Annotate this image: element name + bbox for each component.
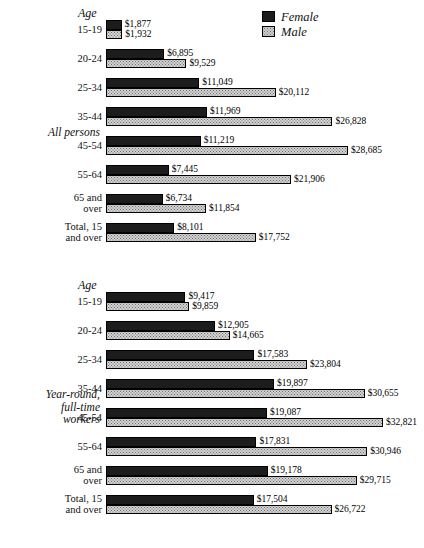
bar-female[interactable] [106, 292, 185, 302]
bar-female[interactable] [106, 194, 163, 204]
row-label-line: 20-24 [0, 54, 102, 65]
row-bars: $6,734$11,854 [106, 194, 424, 213]
bar-value-label-female: $7,445 [169, 164, 198, 175]
bar-wrapper-male: $26,722 [106, 505, 424, 515]
bar-wrapper-female: $17,504 [106, 495, 424, 505]
row-bars: $19,178$29,715 [106, 466, 424, 485]
bar-value-label-female: $19,178 [268, 465, 302, 476]
chart-row: 55-64$7,445$21,906 [0, 165, 424, 194]
bar-female[interactable] [106, 78, 199, 88]
row-label-line: 55-64 [0, 442, 102, 453]
row-bars: $19,087$32,821 [106, 408, 424, 427]
bar-female[interactable] [106, 49, 164, 59]
bar-value-label-male: $30,946 [367, 446, 401, 457]
bar-value-label-male: $11,854 [206, 203, 240, 214]
bar-value-label-female: $11,969 [207, 106, 241, 117]
bar-wrapper-male: $14,665 [106, 331, 424, 341]
bar-wrapper-female: $7,445 [106, 165, 424, 175]
age-header-0: Age [78, 6, 97, 21]
chart-page: Female Male Age All persons 15-19$1,877$… [0, 0, 424, 548]
bar-value-label-female: $17,831 [256, 436, 290, 447]
bar-wrapper-male: $30,946 [106, 447, 424, 457]
bar-wrapper-male: $1,932 [106, 30, 424, 40]
bar-wrapper-male: $11,854 [106, 204, 424, 214]
bar-female[interactable] [106, 437, 256, 447]
chart-row: 45-54$11,219$28,685 [0, 136, 424, 165]
row-bars: $17,583$23,804 [106, 350, 424, 369]
row-bars: $17,831$30,946 [106, 437, 424, 456]
row-label: 55-64 [0, 170, 102, 181]
bar-male[interactable] [106, 117, 332, 127]
bar-male[interactable] [106, 447, 367, 457]
chart-row: 15-19$1,877$1,932 [0, 20, 424, 49]
bar-female[interactable] [106, 107, 207, 117]
bar-female[interactable] [106, 379, 274, 389]
row-bars: $8,101$17,752 [106, 223, 424, 242]
bar-male[interactable] [106, 389, 365, 399]
row-label: 65 andover [0, 465, 102, 486]
bar-wrapper-male: $23,804 [106, 360, 424, 370]
row-label-line: 45-54 [0, 141, 102, 152]
bar-female[interactable] [106, 408, 267, 418]
row-label: 65 andover [0, 193, 102, 214]
bar-value-label-male: $20,112 [276, 87, 310, 98]
row-label: 55-64 [0, 442, 102, 453]
bar-male[interactable] [106, 204, 206, 214]
chart-row: 35-44$11,969$26,828 [0, 107, 424, 136]
bar-wrapper-male: $9,529 [106, 59, 424, 69]
bar-wrapper-male: $29,715 [106, 476, 424, 486]
row-label: 35-44 [0, 112, 102, 123]
bar-value-label-female: $19,087 [267, 407, 301, 418]
bar-value-label-female: $17,583 [254, 349, 288, 360]
bar-male[interactable] [106, 146, 348, 156]
row-label-line: and over [0, 505, 102, 516]
bar-female[interactable] [106, 20, 122, 30]
bar-female[interactable] [106, 165, 169, 175]
row-label: 25-34 [0, 355, 102, 366]
bar-wrapper-male: $9,859 [106, 302, 424, 312]
bar-male[interactable] [106, 88, 276, 98]
bar-value-label-female: $17,504 [254, 494, 288, 505]
row-label: 15-19 [0, 25, 102, 36]
bar-value-label-female: $11,049 [199, 77, 233, 88]
bar-wrapper-male: $17,752 [106, 233, 424, 243]
row-label-line: 15-19 [0, 25, 102, 36]
bar-value-label-male: $29,715 [357, 475, 391, 486]
bar-value-label-male: $21,906 [291, 174, 325, 185]
bar-wrapper-male: $26,828 [106, 117, 424, 127]
bar-female[interactable] [106, 321, 215, 331]
bar-male[interactable] [106, 30, 122, 40]
bar-wrapper-female: $11,049 [106, 78, 424, 88]
bar-male[interactable] [106, 302, 189, 312]
bar-male[interactable] [106, 476, 357, 486]
bar-male[interactable] [106, 59, 186, 69]
bar-male[interactable] [106, 360, 307, 370]
row-bars: $1,877$1,932 [106, 20, 424, 39]
row-label-line: 25-34 [0, 83, 102, 94]
row-label-line: 45-54 [0, 413, 102, 424]
bar-value-label-female: $19,897 [274, 378, 308, 389]
bar-value-label-male: $26,722 [332, 504, 366, 515]
row-label: 35-44 [0, 384, 102, 395]
bar-female[interactable] [106, 466, 268, 476]
bar-wrapper-male: $20,112 [106, 88, 424, 98]
bar-male[interactable] [106, 505, 332, 515]
bar-wrapper-female: $1,877 [106, 20, 424, 30]
bar-wrapper-male: $30,655 [106, 389, 424, 399]
row-label-line: Total, 15 [0, 494, 102, 505]
row-label: 25-34 [0, 83, 102, 94]
row-bars: $12,905$14,665 [106, 321, 424, 340]
bar-male[interactable] [106, 175, 291, 185]
bar-female[interactable] [106, 136, 201, 146]
row-label-line: Total, 15 [0, 222, 102, 233]
row-label-line: 15-19 [0, 297, 102, 308]
bar-male[interactable] [106, 418, 383, 428]
bar-female[interactable] [106, 350, 254, 360]
bar-female[interactable] [106, 223, 174, 233]
chart-row: 45-54$19,087$32,821 [0, 408, 424, 437]
bar-wrapper-female: $17,583 [106, 350, 424, 360]
bar-female[interactable] [106, 495, 254, 505]
bar-male[interactable] [106, 233, 256, 243]
bar-male[interactable] [106, 331, 230, 341]
bar-wrapper-female: $6,895 [106, 49, 424, 59]
